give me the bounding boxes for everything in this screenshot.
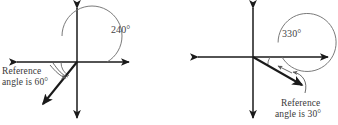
reference-label-right-line1: Reference <box>281 98 320 109</box>
angle-arc-330 <box>278 13 336 71</box>
reference-angle-figure: 240° Reference angle is 60° 330° Referen… <box>0 0 338 125</box>
reference-label-left-line2: angle is 60° <box>2 77 48 88</box>
reference-label-right-line2: angle is 30° <box>275 109 321 120</box>
angle-label-240: 240° <box>111 24 130 35</box>
reference-label-left-line1: Reference <box>2 66 41 77</box>
diagram-left <box>17 6 129 118</box>
terminal-ray-right <box>253 57 302 85</box>
reference-angle-arc-30 <box>268 57 270 66</box>
angle-label-330: 330° <box>282 28 301 39</box>
